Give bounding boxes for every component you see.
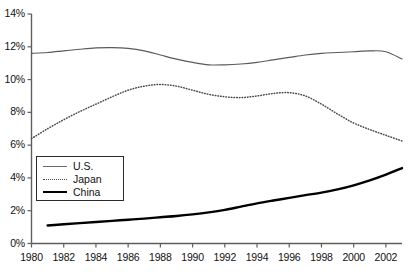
legend-label-us: U.S. xyxy=(73,160,93,173)
y-tick-label: 12% xyxy=(0,40,25,52)
series-line-us xyxy=(32,48,403,65)
y-tick-label: 10% xyxy=(0,73,25,85)
y-tick-label: 8% xyxy=(0,105,25,117)
y-tick-label: 14% xyxy=(0,7,25,19)
legend-swatch-us-icon xyxy=(42,162,68,172)
legend-swatch-japan-icon xyxy=(42,175,68,185)
x-tick-label: 2002 xyxy=(366,251,406,263)
y-tick-label: 0% xyxy=(0,237,25,249)
series-line-japan xyxy=(32,84,403,141)
legend-label-japan: Japan xyxy=(73,173,102,186)
legend-swatch-china-icon xyxy=(42,188,68,198)
legend-item-japan: Japan xyxy=(42,173,123,186)
legend-item-china: China xyxy=(42,186,123,199)
legend-item-us: U.S. xyxy=(42,160,123,173)
plot-area xyxy=(0,0,410,280)
y-tick-label: 2% xyxy=(0,204,25,216)
line-chart: 0%2%4%6%8%10%12%14%198019821984198619881… xyxy=(0,0,410,280)
y-tick-label: 6% xyxy=(0,138,25,150)
y-tick-label: 4% xyxy=(0,171,25,183)
legend-label-china: China xyxy=(73,186,100,199)
chart-legend: U.S. Japan China xyxy=(36,156,124,201)
